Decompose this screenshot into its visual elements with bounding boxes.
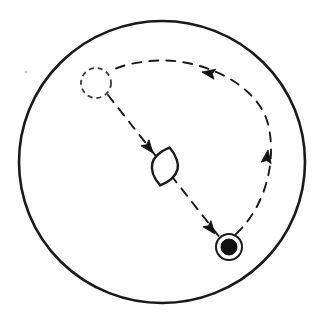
dashed-start-circle <box>81 68 111 98</box>
diagram-canvas <box>0 0 322 317</box>
filled-target-dot-core <box>221 239 237 255</box>
dashed-return-arc <box>113 60 271 234</box>
stray-speck <box>25 71 27 73</box>
figure-root <box>0 0 322 317</box>
